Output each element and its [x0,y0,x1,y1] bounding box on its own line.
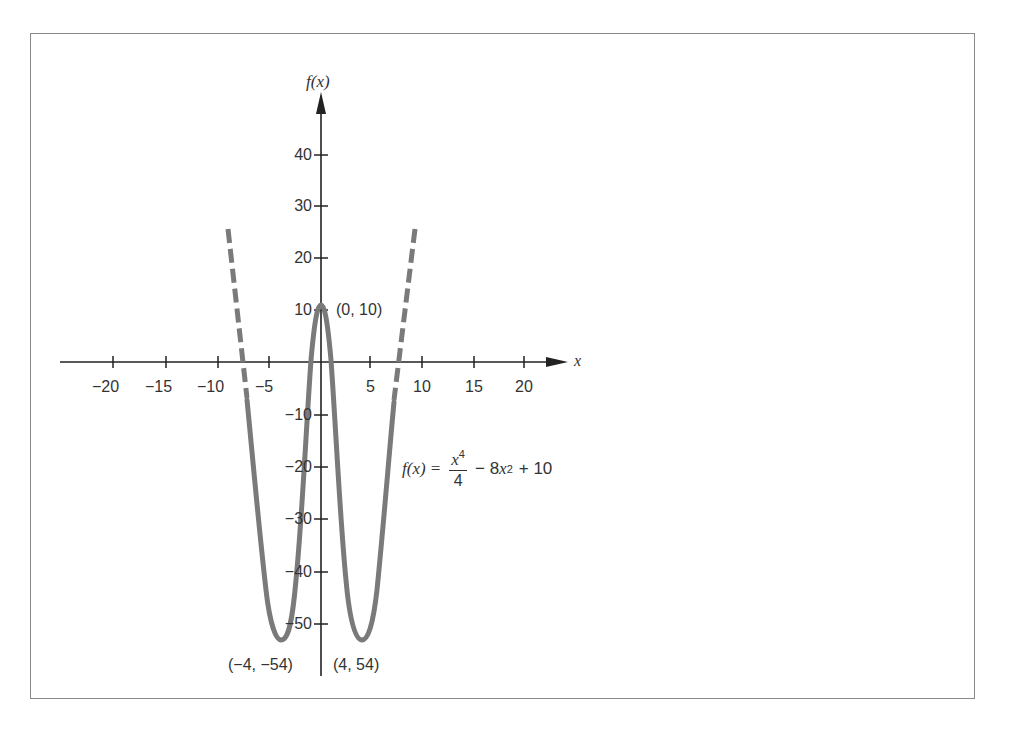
y-axis-arrow-icon [316,92,326,114]
x-tick-label: −15 [145,378,172,396]
y-tick-label: 10 [294,301,312,319]
x-tick-label: 10 [413,378,431,396]
function-equation: f(x) = x4 4 − 8x2 + 10 [402,449,552,489]
x-tick-label: 5 [366,378,375,396]
curve-dashed-right [394,229,415,400]
y-axis-label: f(x) [306,72,330,92]
y-tick-label: −10 [285,406,312,424]
y-tick-label: 40 [294,146,312,164]
min-right-annotation: (4, 54) [333,656,379,674]
curve-dashed-left [228,229,247,398]
x-tick-label: 15 [465,378,483,396]
equation-num-exp: 4 [459,448,465,460]
x-tick-label: −10 [197,378,224,396]
y-tick-label: −40 [285,563,312,581]
y-tick-label: −50 [285,615,312,633]
equation-fraction: x4 4 [449,449,467,489]
x-axis-label: x [574,352,581,370]
equation-mid: − 8 [475,459,499,479]
min-left-annotation: (−4, −54) [228,656,293,674]
y-tick-label: −20 [285,458,312,476]
equation-mid-exp: 2 [507,463,513,475]
x-axis-arrow-icon [546,357,568,367]
equation-num-var: x [451,450,459,469]
equation-tail: + 10 [519,459,553,479]
x-tick-label: −20 [92,378,119,396]
plot-area [0,0,1009,738]
y-tick-label: 30 [294,197,312,215]
equation-den: 4 [454,471,463,489]
y-tick-label: 20 [294,249,312,267]
y-tick-label: −30 [285,510,312,528]
x-tick-label: −5 [255,378,273,396]
peak-annotation: (0, 10) [336,301,382,319]
equation-mid-var: x [499,459,507,479]
equation-lhs: f(x) = [402,459,441,479]
x-tick-label: 20 [515,378,533,396]
